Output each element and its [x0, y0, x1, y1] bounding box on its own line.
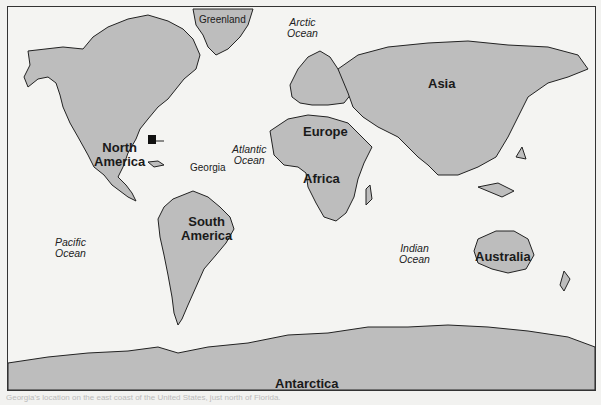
- south-america-label: South America: [181, 215, 232, 242]
- antarctica-label: Antarctica: [275, 377, 339, 391]
- asia-label: Asia: [428, 77, 455, 91]
- indian-ocean-label: Indian Ocean: [399, 243, 430, 265]
- arctic-ocean-label: Arctic Ocean: [287, 17, 318, 39]
- south-america-shape: [158, 191, 234, 325]
- greenland-label: Greenland: [199, 15, 246, 26]
- asia-shape: [338, 41, 588, 175]
- australia-label: Australia: [475, 250, 531, 264]
- north-america-label: North America: [94, 141, 145, 168]
- north-america-shape: [24, 15, 200, 201]
- georgia-label: Georgia: [190, 163, 226, 174]
- atlantic-ocean-label: Atlantic Ocean: [232, 144, 266, 166]
- africa-label: Africa: [303, 172, 340, 186]
- georgia-highlight: [148, 135, 156, 144]
- world-map: Greenland Arctic Ocean North America Geo…: [7, 6, 596, 391]
- map-caption: Georgia's location on the east coast of …: [6, 393, 281, 402]
- europe-label: Europe: [303, 125, 348, 139]
- map-graphic: [8, 7, 595, 390]
- pacific-ocean-label: Pacific Ocean: [55, 237, 86, 259]
